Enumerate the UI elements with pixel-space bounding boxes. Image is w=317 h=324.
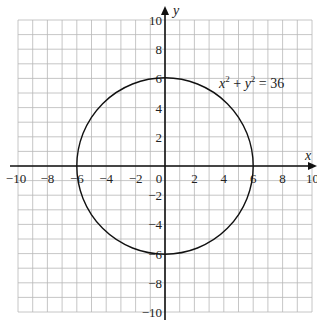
x-tick-label: 4 (221, 171, 228, 186)
y-axis-label: y (171, 3, 180, 18)
x-tick-label: 0 (156, 171, 163, 186)
x-tick-label: 8 (279, 171, 286, 186)
x-tick-label: −10 (6, 171, 26, 186)
y-tick-label: −4 (148, 217, 162, 232)
equation-label: x2 + y2 = 36 (218, 74, 284, 91)
x-tick-label: −2 (129, 171, 143, 186)
y-axis-arrow-icon (161, 6, 169, 15)
x-tick-label: 10 (306, 171, 317, 186)
y-tick-label: 10 (149, 13, 162, 28)
y-tick-label: −2 (148, 188, 162, 203)
x-axis-label: x (304, 148, 312, 163)
y-tick-label: −10 (142, 305, 162, 320)
axes (10, 6, 317, 320)
y-tick-label: 2 (156, 130, 163, 145)
x-tick-label: −8 (40, 171, 54, 186)
y-tick-label: 8 (156, 42, 163, 57)
x-tick-label: 2 (191, 171, 198, 186)
x-tick-label: −4 (99, 171, 113, 186)
y-tick-label: 4 (156, 101, 163, 116)
y-tick-label: −8 (148, 276, 162, 291)
chart: −10−8−6−4−20246810−10−8−6−4−2246810 x y … (0, 0, 317, 324)
x-axis-arrow-icon (308, 162, 317, 170)
